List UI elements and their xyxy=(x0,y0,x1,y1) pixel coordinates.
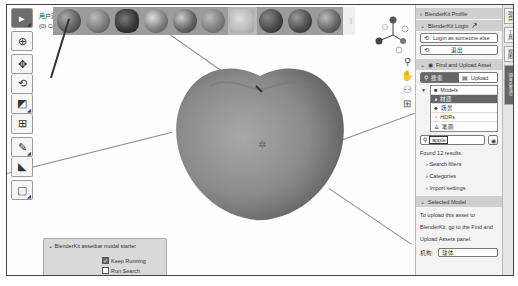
search-tab[interactable]: ⚲搜索 xyxy=(421,73,459,82)
asset-type-label: HDRs xyxy=(440,114,455,120)
blenderkit-assetbar xyxy=(53,7,343,35)
user-refresh-icon: ⟲ xyxy=(424,35,429,41)
add-cube-tool-button[interactable]: ▢◢ xyxy=(11,180,33,200)
upload-icon: ▤ xyxy=(462,75,468,81)
search-input[interactable]: ⚲apple xyxy=(420,135,485,145)
tab-view[interactable]: 视图 xyxy=(504,46,514,62)
tab-blenderkit[interactable]: BlenderKit xyxy=(504,65,514,105)
transform-icon: ⊞ xyxy=(18,117,27,130)
search-tab-label: 搜索 xyxy=(431,74,443,82)
annotate-tool-button[interactable]: ✎◢ xyxy=(11,137,33,157)
select-tool-button[interactable]: ▸◢ xyxy=(11,8,33,28)
preferences-eye-button[interactable]: ◉ xyxy=(488,135,498,145)
categories-toggle[interactable]: › Categories xyxy=(416,170,502,182)
select-icon: ▸ xyxy=(19,12,25,25)
modal-title[interactable]: ⌄ BlenderKit assetbar modal starter xyxy=(44,239,166,249)
tool-shelf: ▸◢ ⊕ ✥ ⟲ ◩◢ ⊞ ✎◢ ◣ ▢◢ xyxy=(11,8,33,203)
scene-icon: ♣ xyxy=(434,105,438,111)
login-as-someone-else-button[interactable]: ⟲Login as someone else xyxy=(420,33,498,43)
apple-3d-model[interactable]: ✲ xyxy=(170,58,350,223)
search-icon: ⚲ xyxy=(424,75,428,81)
annotation-arrow-icon: ↗ xyxy=(471,21,478,30)
asset-type-models[interactable]: ■Models xyxy=(431,86,497,95)
login-as-label: Login as someone else xyxy=(433,35,490,41)
brush-icon: ♙ xyxy=(434,124,439,130)
checkbox-checked-icon: ✓ xyxy=(102,257,109,264)
material-preview-sphere xyxy=(144,9,168,33)
profile-header[interactable]: ›BlenderKit Profile xyxy=(416,8,502,19)
asset-thumbnail[interactable] xyxy=(285,7,314,35)
dropdown-triangle-icon: ▼ xyxy=(421,87,426,93)
search-upload-toggle: ⚲搜索 ▤Upload xyxy=(420,72,498,83)
asset-thumbnail[interactable] xyxy=(141,7,170,35)
material-preview-sphere xyxy=(173,9,197,33)
move-tool-button[interactable]: ✥ xyxy=(11,54,33,74)
material-preview-sphere xyxy=(288,9,312,33)
asset-type-scenes[interactable]: ♣场景 xyxy=(431,104,497,113)
import-settings-toggle[interactable]: › Import settings xyxy=(416,182,502,194)
pan-icon[interactable]: ✋ xyxy=(400,69,414,83)
material-preview-sphere xyxy=(317,9,341,33)
import-settings-label: Import settings xyxy=(429,185,465,191)
keep-running-checkbox[interactable]: ✓ Keep Running xyxy=(102,257,146,264)
asset-thumbnail-highlighted[interactable] xyxy=(228,7,257,35)
material-preview-sphere xyxy=(57,9,81,33)
chevron-down-icon: ⌄ xyxy=(420,62,425,68)
transform-tool-button[interactable]: ⊞ xyxy=(11,114,33,134)
asset-thumbnail[interactable] xyxy=(314,7,343,35)
add-cube-icon: ▢ xyxy=(17,184,27,197)
search-filters-label: Search filters xyxy=(429,161,461,167)
move-icon: ✥ xyxy=(18,58,27,71)
tab-tool[interactable]: 工具 xyxy=(504,27,514,43)
find-upload-label: Find and Upload Asset xyxy=(436,62,491,68)
cube-icon: ■ xyxy=(434,87,437,93)
login-header-label: BlenderKit Login xyxy=(428,23,468,29)
profile-header-label: BlenderKit Profile xyxy=(425,11,468,17)
selected-model-header[interactable]: ⌄Selected Model xyxy=(416,196,502,207)
assetbar-modal-starter-panel: ⌄ BlenderKit assetbar modal starter ✓ Ke… xyxy=(43,238,167,276)
asset-type-hdrs[interactable]: ◔HDRs xyxy=(431,113,497,122)
results-count: Found 12 results. xyxy=(416,148,502,158)
login-header[interactable]: ⌄BlenderKit Login↗ xyxy=(416,20,502,31)
zoom-icon[interactable]: ⚲ xyxy=(400,55,414,69)
asset-type-materials[interactable]: ◕材质 xyxy=(431,95,497,104)
assetbar-scroll-indicator[interactable]: ››› xyxy=(343,7,355,35)
chevron-right-icon: › xyxy=(420,11,422,17)
asset-type-label: Models xyxy=(440,87,458,93)
blender-window: 用户透视 (0) Co... ▸◢ ⊕ ✥ ⟲ ◩◢ ⊞ ✎◢ ◣ ▢◢ xyxy=(6,4,514,276)
find-upload-header[interactable]: ⌄◉Find and Upload Asset xyxy=(416,59,502,70)
material-preview-sphere xyxy=(201,9,225,33)
modal-title-text: BlenderKit assetbar modal starter xyxy=(55,243,137,249)
run-search-checkbox[interactable]: Run Search xyxy=(102,267,140,274)
asset-thumbnail[interactable] xyxy=(84,7,113,35)
logout-button[interactable]: ⟲退出 xyxy=(420,45,498,55)
chevron-down-icon: ⌄ xyxy=(420,199,425,205)
upload-tab[interactable]: ▤Upload xyxy=(459,73,497,82)
upload-info-text: Upload Assets panel. xyxy=(416,232,502,244)
asset-thumbnail[interactable] xyxy=(257,7,286,35)
scale-icon: ◩ xyxy=(17,97,27,110)
measure-tool-button[interactable]: ◣ xyxy=(11,157,33,177)
navigation-gizmo[interactable] xyxy=(375,15,415,55)
cursor-tool-button[interactable]: ⊕ xyxy=(11,31,33,51)
asset-thumbnail[interactable] xyxy=(55,7,84,35)
asset-thumbnail[interactable] xyxy=(199,7,228,35)
search-icon: ⚲ xyxy=(423,137,427,143)
rotate-tool-button[interactable]: ⟲ xyxy=(11,74,33,94)
asset-type-brushes[interactable]: ♙笔刷 xyxy=(431,122,497,131)
camera-icon[interactable]: ⚇ xyxy=(400,83,414,97)
eye-icon: ◉ xyxy=(491,137,496,144)
grid-icon[interactable]: ⊞ xyxy=(400,97,414,111)
search-filters-toggle[interactable]: › Search filters xyxy=(416,158,502,170)
asset-thumbnail[interactable] xyxy=(170,7,199,35)
name-field[interactable]: 球体 xyxy=(438,248,498,257)
scale-tool-button[interactable]: ◩◢ xyxy=(11,94,33,114)
3d-viewport[interactable]: 用户透视 (0) Co... ▸◢ ⊕ ✥ ⟲ ◩◢ ⊞ ✎◢ ◣ ▢◢ xyxy=(7,5,415,276)
asset-thumbnail[interactable] xyxy=(113,7,142,35)
tab-item[interactable]: 项目 xyxy=(504,8,514,24)
asset-type-label: 材质 xyxy=(440,95,452,103)
categories-label: Categories xyxy=(429,173,456,179)
run-search-label: Run Search xyxy=(111,268,140,274)
material-preview-sphere xyxy=(259,9,283,33)
material-preview-sphere xyxy=(115,9,139,33)
